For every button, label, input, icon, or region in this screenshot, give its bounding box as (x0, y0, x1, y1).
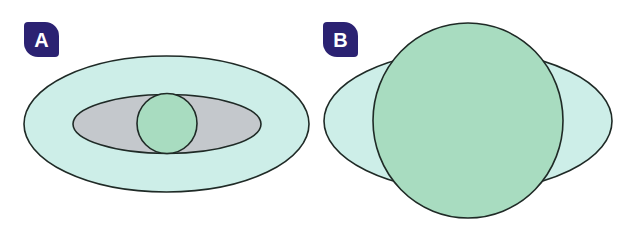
panel-label-badge-a: A (24, 22, 59, 57)
panel-label-badge-b: B (323, 22, 358, 57)
core-circle-a (137, 94, 197, 154)
panel-a: A (0, 0, 310, 230)
core-circle-b (373, 23, 563, 218)
panel-b: B (310, 0, 618, 230)
